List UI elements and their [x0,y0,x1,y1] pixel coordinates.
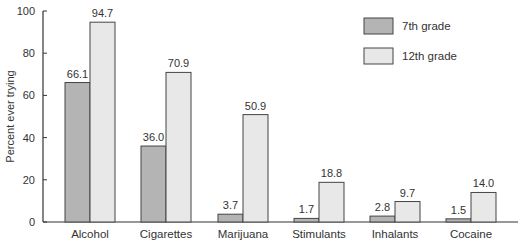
value-label: 2.8 [375,201,390,213]
category-label: Cigarettes [140,228,193,240]
y-tick-label: 20 [23,174,35,186]
bar-12th-grade [90,22,115,222]
bar-7th-grade [446,219,471,222]
legend-label: 12th grade [402,50,457,62]
bar-group-stimulants: 1.718.8Stimulants [292,167,346,240]
value-label: 3.7 [223,199,238,211]
legend-swatch [364,48,393,64]
value-label: 66.1 [67,68,88,80]
y-tick-label: 60 [23,89,35,101]
y-tick-label: 40 [23,132,35,144]
value-label: 50.9 [245,100,266,112]
bar-group-alcohol: 66.194.7Alcohol [65,7,115,240]
value-label: 18.8 [321,167,342,179]
bar-7th-grade [65,83,90,222]
bar-7th-grade [294,218,319,222]
bar-group-marijuana: 3.750.9Marijuana [218,100,269,240]
value-label: 9.7 [400,187,415,199]
y-tick-label: 0 [29,216,35,228]
bar-group-cocaine: 1.514.0Cocaine [446,177,496,240]
legend-label: 7th grade [402,20,451,32]
value-label: 94.7 [92,7,113,19]
bar-12th-grade [471,192,496,222]
bar-7th-grade [218,214,243,222]
bar-7th-grade [141,146,166,222]
category-label: Alcohol [71,228,109,240]
legend-swatch [364,18,393,34]
value-label: 14.0 [473,177,494,189]
bar-12th-grade [319,182,344,222]
y-tick-label: 100 [17,5,35,17]
category-label: Inhalants [372,228,419,240]
bar-group-inhalants: 2.89.7Inhalants [370,187,420,240]
category-label: Cocaine [450,228,492,240]
value-label: 36.0 [143,131,164,143]
y-tick-label: 80 [23,47,35,59]
value-label: 1.7 [299,203,314,215]
category-label: Stimulants [292,228,346,240]
bar-group-cigarettes: 36.070.9Cigarettes [140,57,193,240]
bar-7th-grade [370,216,395,222]
bar-12th-grade [166,72,191,222]
bar-12th-grade [395,202,420,222]
legend: 7th grade12th grade [364,18,457,64]
bar-chart: 020406080100Percent ever trying 66.194.7… [0,0,523,248]
bar-12th-grade [243,115,268,222]
y-axis-label: Percent ever trying [4,70,16,162]
bars: 66.194.7Alcohol36.070.9Cigarettes3.750.9… [65,7,496,240]
value-label: 1.5 [451,204,466,216]
value-label: 70.9 [168,57,189,69]
category-label: Marijuana [218,228,269,240]
